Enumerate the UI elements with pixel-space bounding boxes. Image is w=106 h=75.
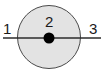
diagram-label-2: 2 — [45, 14, 53, 29]
diagram-svg — [0, 0, 106, 75]
diagram-label-3: 3 — [89, 21, 97, 36]
diagram-canvas: 1 2 3 — [0, 0, 106, 75]
center-dot — [44, 33, 55, 44]
diagram-label-1: 1 — [3, 21, 11, 36]
